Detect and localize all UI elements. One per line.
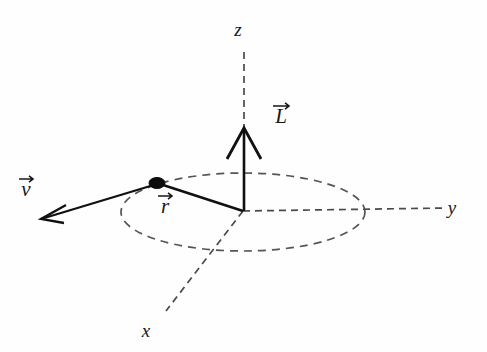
- x-axis-line: [166, 211, 243, 311]
- angular-momentum-vector-label: L: [274, 104, 287, 128]
- z-axis-label: z: [233, 19, 242, 40]
- velocity-vector-arrowhead: [41, 205, 66, 223]
- radius-vector-shaft: [160, 184, 243, 211]
- angular-momentum-vector-label-group: L: [273, 103, 289, 128]
- orbiting-particle: [149, 178, 165, 189]
- radius-vector-label: r: [161, 194, 170, 218]
- diagram-svg: z y x L r v: [0, 0, 487, 352]
- radius-vector-label-group: r: [158, 193, 172, 218]
- y-axis-label: y: [446, 197, 457, 218]
- physics-diagram-canvas: z y x L r v: [0, 0, 487, 352]
- x-axis-label: x: [141, 320, 151, 341]
- y-axis-line: [243, 208, 446, 211]
- velocity-vector-label-group: v: [19, 176, 33, 201]
- velocity-vector-shaft: [41, 184, 157, 219]
